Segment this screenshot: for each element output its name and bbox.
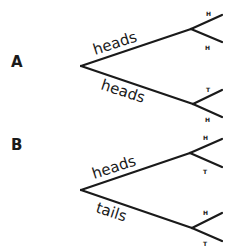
tree-a-leaf-1: H [206,10,211,17]
tree-a-leaf-4: H [205,116,210,123]
tree-b-lower-branch-label: tails [94,199,129,226]
tree-b: B heads tails H T H T [11,134,222,246]
probability-tree-diagrams: A heads heads H H T H B heads tails H T … [0,0,233,246]
tree-a-label: A [11,53,23,71]
tree-b-leaf-1: H [203,134,208,141]
tree-a-leaf-line [191,15,222,29]
tree-b-leaf-line [190,153,222,167]
tree-a-leaf-line [191,29,222,42]
tree-a: A heads heads H H T H [11,10,222,123]
tree-b-label: B [11,136,22,154]
tree-a-leaf-3: T [206,86,211,93]
tree-b-leaf-line [190,139,222,153]
tree-b-leaf-2: T [203,168,208,175]
tree-b-leaf-3: H [203,209,208,216]
tree-b-leaf-4: T [203,240,208,246]
tree-a-leaf-2: H [205,44,210,51]
